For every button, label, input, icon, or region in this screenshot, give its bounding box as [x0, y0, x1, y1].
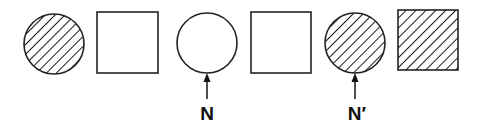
pointer-arrow-n-prime [352, 73, 359, 99]
label-n: N [200, 103, 214, 124]
hatched-square [398, 10, 458, 70]
arrowhead-icon [204, 73, 211, 82]
hatched-circle-n-prime [325, 13, 385, 73]
hatched-circle-1 [24, 14, 84, 74]
empty-square-1 [97, 12, 158, 73]
shape-sequence-diagram: N N′ [0, 0, 480, 126]
empty-square-2 [251, 12, 311, 73]
empty-circle-n [177, 13, 237, 73]
label-n-prime: N′ [348, 103, 367, 124]
arrowhead-icon [352, 73, 359, 82]
pointer-arrow-n [204, 73, 211, 99]
